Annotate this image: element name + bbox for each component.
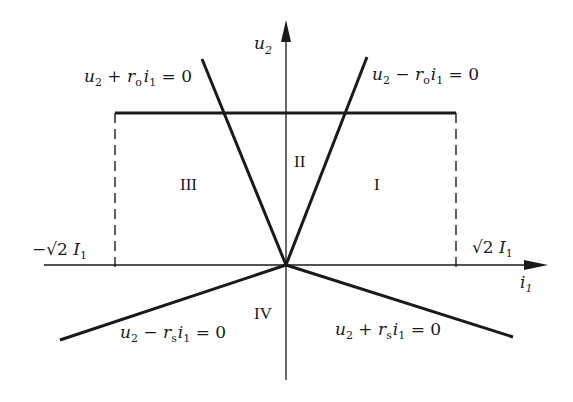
y-axis-arrow-icon — [281, 20, 291, 42]
neg-limit-label: −√2 I1 — [32, 239, 87, 262]
equation-upper-right: u2 − roi1 = 0 — [372, 64, 479, 87]
x-axis-label: i1 — [520, 272, 532, 295]
operating-region-diagram: u2 i1 −√2 I1 √2 I1 u2 + roi1 = 0 u2 − ro… — [0, 0, 573, 402]
y-axis-label: u2 — [254, 33, 272, 57]
line-u2-minus-rs-i1 — [60, 265, 286, 340]
pos-limit-label: √2 I1 — [472, 237, 513, 260]
region-label-I: I — [374, 175, 380, 194]
region-label-II: II — [294, 152, 306, 171]
line-u2-plus-rs-i1 — [286, 265, 513, 337]
equation-lower-right: u2 + rsi1 = 0 — [335, 319, 441, 342]
line-u2-plus-ro-i1 — [202, 59, 286, 265]
equation-lower-left: u2 − rsi1 = 0 — [120, 322, 226, 345]
equation-upper-left: u2 + roi1 = 0 — [84, 66, 192, 89]
region-label-III: III — [180, 175, 197, 194]
region-label-IV: IV — [254, 304, 273, 323]
x-axis-arrow-icon — [524, 260, 548, 270]
